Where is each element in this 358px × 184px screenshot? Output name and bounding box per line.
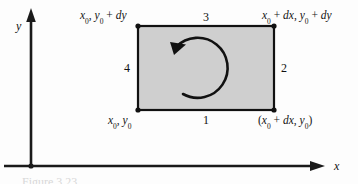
corner-dot-top-right	[271, 23, 276, 28]
edge-number-right: 2	[281, 62, 287, 74]
y-axis-arrowhead	[26, 8, 36, 22]
corner-dot-bottom-right	[271, 107, 276, 112]
edge-number-bottom: 1	[203, 114, 209, 126]
edge-number-left: 4	[124, 62, 130, 74]
x-axis	[4, 161, 325, 171]
corner-label-bottom-left: x0, y0	[108, 115, 131, 127]
figure-caption: Figure 3.23	[22, 176, 77, 184]
corner-label-bottom-right: (x0 + dx, y0)	[258, 115, 312, 127]
corner-dot-top-left	[135, 23, 140, 28]
origin-dot	[28, 163, 33, 168]
edge-number-top: 3	[203, 11, 209, 23]
x-axis-arrowhead	[310, 161, 325, 171]
x-axis-label: x	[334, 160, 339, 172]
corner-label-top-right: x0 + dx, y0 + dy	[262, 10, 332, 22]
figure-canvas	[0, 0, 358, 184]
y-axis-label: y	[16, 20, 21, 32]
corner-dot-bottom-left	[135, 107, 140, 112]
corner-label-top-left: x0, y0 + dy	[80, 10, 127, 22]
vector-calculus-circulation-figure: x0, y0 + dy x0 + dx, y0 + dy x0, y0 (x0 …	[0, 0, 358, 184]
y-axis	[26, 8, 36, 166]
